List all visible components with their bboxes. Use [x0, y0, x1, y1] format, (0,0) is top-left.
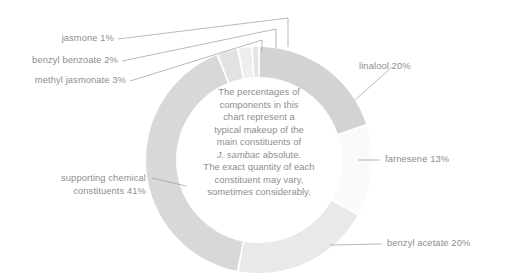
- center-note-line-5: main constituents of: [217, 136, 301, 147]
- label-linalool: linalool 20%: [359, 60, 411, 73]
- label-benzyl-benzoate: benzyl benzoate 2%: [0, 54, 118, 67]
- center-note-line-4: typical makeup of the: [214, 124, 304, 135]
- label-supporting-line-2: constituents 41%: [73, 186, 146, 196]
- donut-slice-benzyl-acetate: [239, 201, 358, 273]
- donut-chart: jasmone 1% benzyl benzoate 2% methyl jas…: [0, 0, 518, 277]
- center-note-line-7: The exact quantity of each: [203, 161, 314, 172]
- center-annotation: The percentages of components in this ch…: [191, 86, 327, 199]
- label-supporting-chemical-constituents: supporting chemical constituents 41%: [10, 172, 146, 197]
- center-note-line-9: sometimes considerably.: [207, 186, 311, 197]
- leader-line-benzyl-benzoate: [122, 29, 276, 61]
- center-note-line-3: chart represent a: [223, 111, 295, 122]
- donut-slice-jasmone: [253, 47, 258, 77]
- label-benzyl-acetate: benzyl acetate 20%: [387, 237, 470, 250]
- center-note-species-name: J. sambac: [217, 149, 260, 160]
- label-farnesene: farnesene 13%: [385, 153, 449, 166]
- label-jasmone: jasmone 1%: [0, 32, 114, 45]
- leader-line-benzyl-acetate: [330, 244, 382, 245]
- center-note-line-2: components in this: [219, 99, 298, 110]
- center-note-line-1: The percentages of: [218, 86, 300, 97]
- center-note-line-8: constituent may vary,: [215, 174, 304, 185]
- donut-slice-farnesene: [332, 126, 372, 213]
- leader-line-jasmone: [118, 18, 288, 47]
- label-supporting-line-1: supporting chemical: [61, 173, 146, 183]
- label-methyl-jasmonate: methyl jasmonate 3%: [0, 74, 126, 87]
- center-note-line-6-rest: absolute.: [260, 149, 301, 160]
